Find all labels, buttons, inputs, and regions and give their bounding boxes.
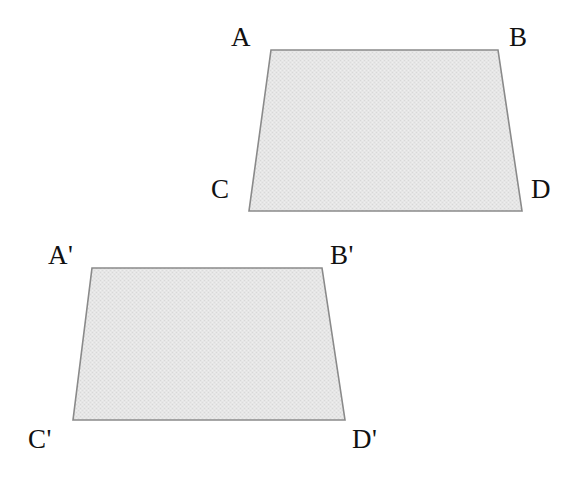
vertex-label-a: A: [231, 24, 251, 51]
geometry-figure: A B C D A' B' C' D': [0, 0, 584, 483]
quadrilateral-ABCD-shape: [249, 50, 522, 211]
vertex-label-b: B: [509, 24, 527, 51]
vertex-label-c: C: [211, 176, 229, 203]
vertex-label-d: D: [531, 176, 551, 203]
vertex-label-b-prime: B': [330, 242, 354, 269]
figure-canvas: [0, 0, 584, 483]
vertex-label-a-prime: A': [48, 242, 73, 269]
quadrilateral-ABCD-prime-shape: [73, 268, 345, 420]
vertex-label-c-prime: C': [28, 426, 52, 453]
vertex-label-d-prime: D': [352, 426, 377, 453]
